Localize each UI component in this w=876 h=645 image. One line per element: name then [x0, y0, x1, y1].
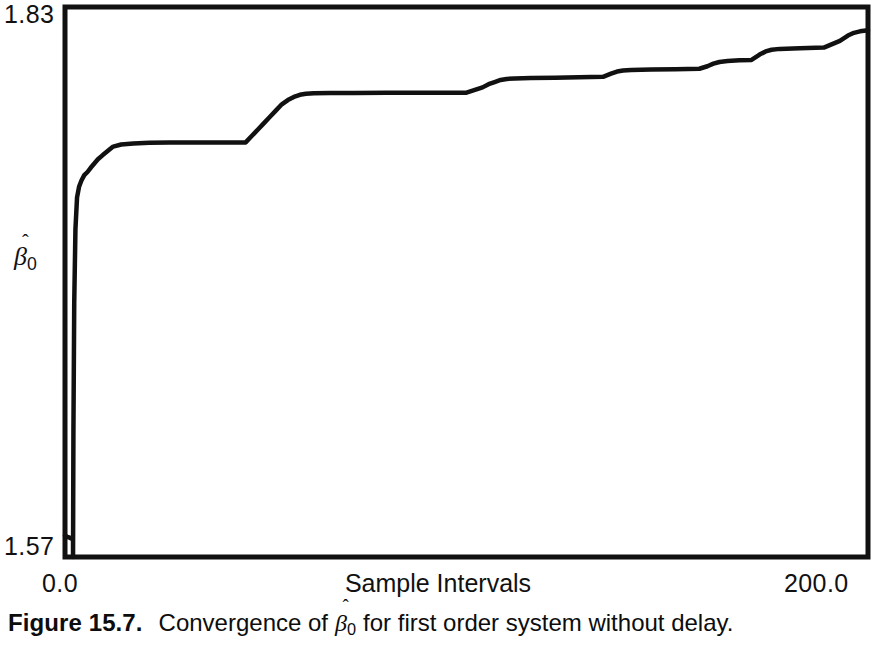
plot-frame-border [65, 7, 868, 557]
figure-caption-label: Figure 15.7. [8, 609, 143, 636]
plot-frame-group [65, 7, 868, 557]
plot-canvas [0, 0, 876, 645]
caption-hat-accent-icon: ˆ [335, 597, 356, 616]
figure-caption-text-before: Convergence of [159, 609, 328, 636]
data-series-group [65, 30, 868, 557]
caption-subscript-zero: 0 [347, 620, 356, 638]
figure-container: 1.83 1.57 0.0 200.0 Sample Intervals ˆβ0… [0, 0, 876, 645]
caption-symbol: ˆβ0 [335, 608, 356, 644]
figure-caption: Figure 15.7.Convergence ofˆβ0for first o… [8, 608, 876, 644]
figure-caption-text-after: for first order system without delay. [363, 609, 733, 636]
data-line-beta-hat-0 [65, 30, 868, 557]
